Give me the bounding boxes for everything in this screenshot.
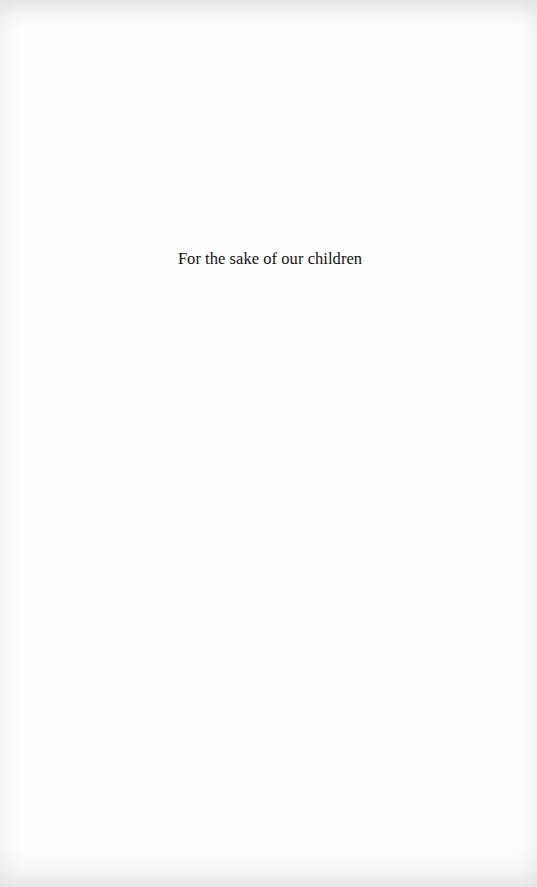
dedication-text: For the sake of our children: [0, 249, 537, 269]
book-page: For the sake of our children: [0, 0, 537, 887]
